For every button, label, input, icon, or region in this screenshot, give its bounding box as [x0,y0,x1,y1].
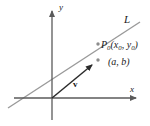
y-axis-label: y [59,3,63,12]
point-p0-label: P0(x0, y0) [101,40,138,52]
vector-v [52,65,92,98]
vector-v-label: v [73,80,78,89]
vector-line-diagram: L y x P0(x0, y0) (a, b) v [0,0,150,126]
line-L-label: L [124,14,130,25]
vector-components-label: (a, b) [108,57,130,67]
point-p0-dot [96,42,99,45]
p0-paren-close: ) [135,39,138,50]
point-ab-dot [96,58,99,61]
x-axis-label: x [130,85,134,94]
